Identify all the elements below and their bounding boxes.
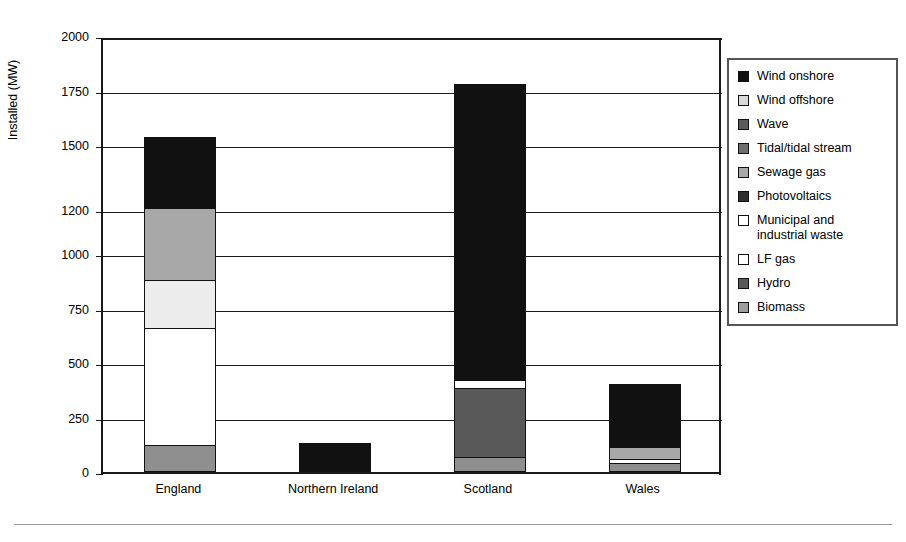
y-axis-tick-label: 1200 xyxy=(35,205,89,217)
legend-item[interactable]: Hydro xyxy=(738,276,888,291)
y-axis-tick-label: 0 xyxy=(35,467,89,479)
bar-segment[interactable] xyxy=(144,208,216,280)
legend-swatch-icon xyxy=(738,215,749,226)
bar-segment[interactable] xyxy=(454,84,526,380)
legend-item-label: Wind offshore xyxy=(757,93,834,108)
legend-item[interactable]: Wind offshore xyxy=(738,93,888,108)
bar-northern-ireland[interactable] xyxy=(299,36,371,472)
plot-area xyxy=(101,38,720,474)
legend-swatch-icon xyxy=(738,254,749,265)
legend-item-label: Photovoltaics xyxy=(757,189,831,204)
chart-figure: Installed (MW) 2000175015001200100075050… xyxy=(0,0,906,542)
plot-right-border xyxy=(719,38,721,475)
bar-segment[interactable] xyxy=(609,459,681,463)
y-axis-tick-label: 250 xyxy=(35,413,89,425)
y-axis-tick xyxy=(96,474,103,475)
legend-item[interactable]: Photovoltaics xyxy=(738,189,888,204)
legend-item-label: Wave xyxy=(757,117,789,132)
legend-swatch-icon xyxy=(738,167,749,178)
legend-item-label: Municipal and industrial waste xyxy=(757,213,843,243)
legend-swatch-icon xyxy=(738,71,749,82)
legend-item-label: Tidal/tidal stream xyxy=(757,141,852,156)
legend: Wind onshoreWind offshoreWaveTidal/tidal… xyxy=(727,58,898,326)
legend-swatch-icon xyxy=(738,143,749,154)
bar-segment[interactable] xyxy=(454,457,526,472)
y-axis-tick xyxy=(96,212,103,213)
legend-swatch-icon xyxy=(738,278,749,289)
y-axis-tick-label: 1000 xyxy=(35,249,89,261)
legend-item[interactable]: Wind onshore xyxy=(738,69,888,84)
legend-item-label: Biomass xyxy=(757,300,805,315)
y-axis-tick-label: 1500 xyxy=(35,140,89,152)
legend-item-label: Wind onshore xyxy=(757,69,834,84)
legend-swatch-icon xyxy=(738,302,749,313)
legend-item[interactable]: Sewage gas xyxy=(738,165,888,180)
y-axis-tick xyxy=(96,256,103,257)
legend-item[interactable]: Municipal and industrial waste xyxy=(738,213,888,243)
footer-rule xyxy=(14,524,892,525)
y-axis-tick xyxy=(96,147,103,148)
y-axis-tick-label: 500 xyxy=(35,358,89,370)
bar-segment[interactable] xyxy=(144,280,216,328)
legend-item-label: Sewage gas xyxy=(757,165,826,180)
y-axis-tick xyxy=(96,420,103,421)
y-axis-tick xyxy=(96,38,103,39)
legend-item[interactable]: Biomass xyxy=(738,300,888,315)
bar-segment[interactable] xyxy=(144,328,216,445)
bar-segment[interactable] xyxy=(609,463,681,472)
legend-item[interactable]: Wave xyxy=(738,117,888,132)
x-axis-tick-label: Wales xyxy=(553,482,733,496)
bar-scotland[interactable] xyxy=(454,36,526,472)
bar-england[interactable] xyxy=(144,36,216,472)
y-axis-tick xyxy=(96,311,103,312)
legend-item-label: LF gas xyxy=(757,252,795,267)
y-axis-tick-label: 2000 xyxy=(35,31,89,43)
x-axis-tick-label: Northern Ireland xyxy=(243,482,423,496)
y-axis-tick-label: 1750 xyxy=(35,86,89,98)
y-axis-title: Installed (MW) xyxy=(6,20,20,180)
y-axis-tick xyxy=(96,365,103,366)
y-axis-tick-label: 750 xyxy=(35,304,89,316)
x-axis-tick-label: Scotland xyxy=(398,482,578,496)
legend-item[interactable]: LF gas xyxy=(738,252,888,267)
bar-segment[interactable] xyxy=(144,445,216,472)
legend-swatch-icon xyxy=(738,119,749,130)
bar-segment[interactable] xyxy=(609,447,681,459)
legend-swatch-icon xyxy=(738,191,749,202)
bar-segment[interactable] xyxy=(454,388,526,457)
bar-segment[interactable] xyxy=(299,443,371,472)
legend-item-label: Hydro xyxy=(757,276,790,291)
bar-wales[interactable] xyxy=(609,36,681,472)
legend-swatch-icon xyxy=(738,95,749,106)
bar-segment[interactable] xyxy=(609,384,681,447)
x-axis-tick-label: England xyxy=(88,482,268,496)
legend-item[interactable]: Tidal/tidal stream xyxy=(738,141,888,156)
bar-segment[interactable] xyxy=(144,137,216,208)
y-axis-tick xyxy=(96,93,103,94)
bar-segment[interactable] xyxy=(454,380,526,388)
